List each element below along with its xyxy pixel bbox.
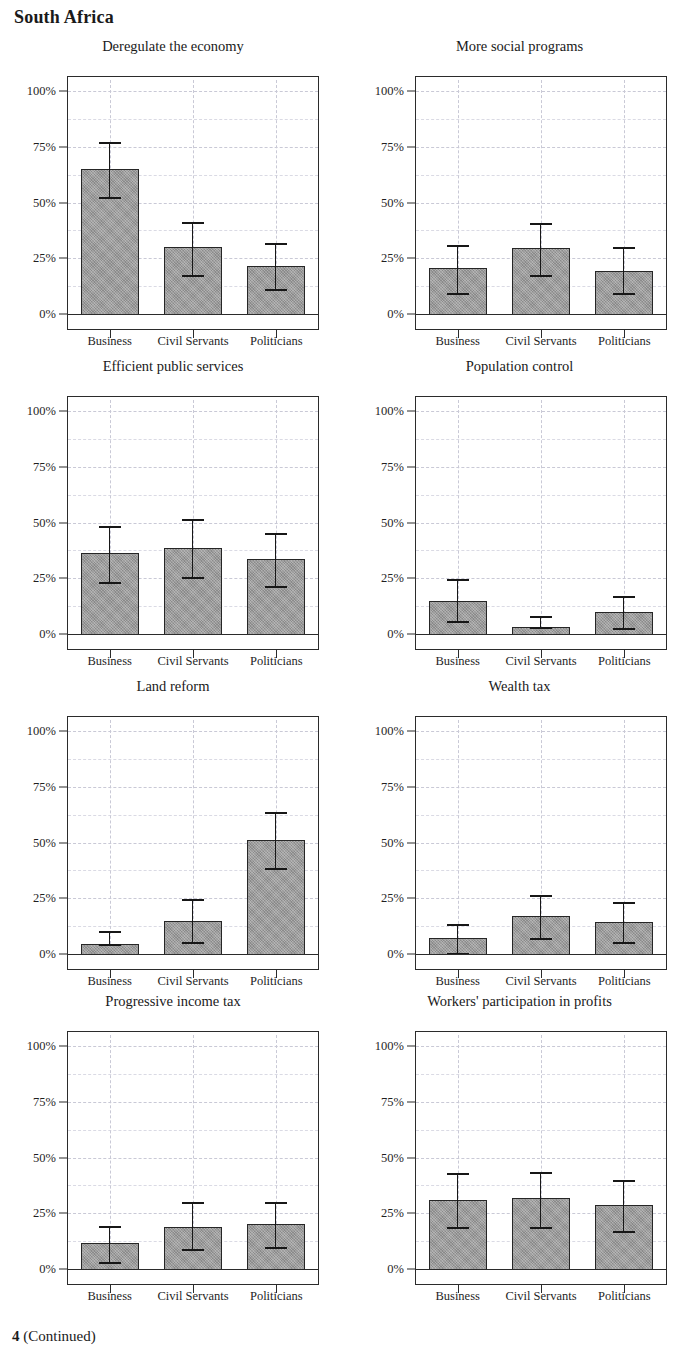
panel-title: Deregulate the economy (0, 38, 346, 55)
y-axis-tick-mark (407, 1101, 415, 1102)
y-axis-tick-mark (407, 522, 415, 523)
error-bar-cap-lower (99, 197, 121, 199)
chart-panel: Workers' participation in profits0%25%50… (346, 989, 693, 1309)
error-bar-stem (623, 596, 624, 628)
y-axis-tick-label: 100% (375, 724, 404, 739)
error-bar (429, 80, 487, 314)
x-axis-tick-label: Business (435, 974, 479, 989)
error-bar-cap-upper (613, 1180, 635, 1182)
error-bar-cap-lower (530, 627, 552, 629)
y-axis-tick-label: 25% (33, 1206, 56, 1221)
y-axis-tick-label: 50% (33, 835, 56, 850)
error-bar-cap-upper (182, 222, 204, 224)
y-axis-tick-label: 100% (27, 1039, 56, 1054)
x-axis-tick-label: Politicians (250, 334, 303, 349)
x-axis-tick-label: Civil Servants (505, 974, 576, 989)
error-bar (247, 720, 305, 954)
error-bar-cap-upper (530, 1172, 552, 1174)
error-bar (512, 80, 570, 314)
error-bar-cap-upper (99, 526, 121, 528)
error-bar-cap-upper (530, 223, 552, 225)
plot-area (416, 720, 666, 954)
y-axis-tick-label: 100% (375, 84, 404, 99)
y-axis-tick-mark (407, 1157, 415, 1158)
error-bar-stem (457, 245, 458, 293)
caption-continued: (Continued) (23, 1328, 96, 1344)
plot-area (416, 400, 666, 634)
error-bar-stem (275, 812, 276, 868)
y-axis-tick-label: 100% (27, 724, 56, 739)
figure-caption: 4 (Continued) (12, 1328, 96, 1345)
y-axis-tick-label: 75% (33, 1094, 56, 1109)
error-bar-cap-upper (99, 1226, 121, 1228)
error-bar-cap-upper (265, 533, 287, 535)
error-bar-cap-upper (530, 616, 552, 618)
error-bar-cap-lower (99, 1262, 121, 1264)
error-bar-cap-upper (613, 247, 635, 249)
y-axis-tick-mark (59, 786, 67, 787)
y-axis-tick-mark (407, 411, 415, 412)
error-bar (595, 400, 653, 634)
page-title: South Africa (14, 7, 114, 28)
plot-area (416, 1035, 666, 1269)
y-axis-tick-label: 50% (381, 835, 404, 850)
panel-title: Wealth tax (346, 678, 693, 695)
chart-panel: Deregulate the economy0%25%50%75%100%Bus… (0, 34, 346, 354)
plot-frame (67, 396, 319, 650)
y-axis-tick-mark (407, 954, 415, 955)
plot-frame (67, 1031, 319, 1285)
y-axis-tick-label: 75% (381, 139, 404, 154)
error-bar-cap-lower (613, 1231, 635, 1233)
error-bar-cap-lower (182, 1249, 204, 1251)
error-bar-cap-lower (447, 621, 469, 623)
y-axis-tick-label: 25% (33, 571, 56, 586)
y-axis-tick-label: 100% (27, 404, 56, 419)
y-axis-tick-mark (59, 466, 67, 467)
error-bar (164, 400, 222, 634)
y-axis-tick-label: 75% (381, 779, 404, 794)
y-axis-tick-mark (407, 578, 415, 579)
error-bar (81, 400, 139, 634)
error-bar-stem (109, 526, 110, 582)
x-axis-tick-label: Business (87, 654, 131, 669)
error-bar-cap-lower (613, 293, 635, 295)
plot-frame (415, 396, 667, 650)
plot-area (68, 80, 318, 314)
error-bar-cap-lower (530, 1227, 552, 1229)
panel-title: Workers' participation in profits (346, 993, 693, 1010)
error-bar-stem (192, 519, 193, 577)
y-axis-tick-mark (59, 314, 67, 315)
plot-frame (415, 1031, 667, 1285)
error-bar-stem (540, 223, 541, 275)
x-axis-tick-label: Business (435, 654, 479, 669)
y-axis-tick-mark (407, 898, 415, 899)
error-bar-stem (623, 247, 624, 293)
plot-area (68, 720, 318, 954)
error-bar-cap-lower (613, 942, 635, 944)
plot-area (416, 80, 666, 314)
error-bar-stem (109, 142, 110, 197)
error-bar (164, 80, 222, 314)
y-axis-tick-mark (59, 258, 67, 259)
error-bar-cap-upper (530, 895, 552, 897)
error-bar (247, 1035, 305, 1269)
error-bar-cap-upper (613, 596, 635, 598)
axis-baseline (68, 314, 318, 315)
x-axis-tick-label: Politicians (250, 654, 303, 669)
y-axis-tick-mark (59, 634, 67, 635)
y-axis-tick-mark (59, 1269, 67, 1270)
error-bar-cap-upper (182, 899, 204, 901)
error-bar-cap-upper (182, 519, 204, 521)
error-bar-cap-lower (265, 586, 287, 588)
y-axis-tick-label: 25% (381, 571, 404, 586)
y-axis-tick-label: 0% (387, 307, 404, 322)
panel-title: Progressive income tax (0, 993, 346, 1010)
error-bar-cap-upper (613, 902, 635, 904)
error-bar-cap-upper (447, 579, 469, 581)
error-bar-stem (540, 1172, 541, 1227)
x-axis-tick-label: Business (435, 334, 479, 349)
y-axis-tick-mark (59, 1157, 67, 1158)
error-bar-cap-lower (447, 1227, 469, 1229)
error-bar-stem (457, 1173, 458, 1226)
error-bar (595, 720, 653, 954)
